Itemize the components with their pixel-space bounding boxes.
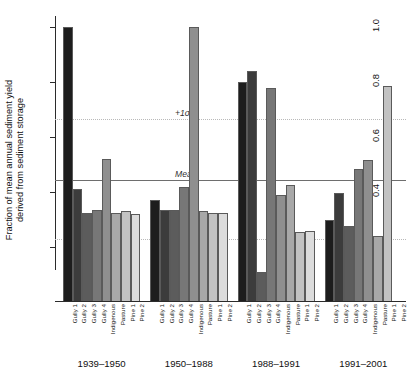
x-axis-category-label: Pine 2	[400, 304, 407, 322]
bar	[199, 211, 209, 302]
y-axis-title-line1: Fraction of mean annual sediment yield	[4, 80, 14, 240]
x-axis-category-label: Pasture	[119, 304, 126, 325]
x-axis-category-label: Gully 3	[352, 304, 359, 323]
x-axis-category-label: Gully 2	[80, 304, 87, 323]
x-axis-group-label: 1939–1950	[78, 358, 126, 369]
y-axis-title: Fraction of mean annual sediment yield d…	[0, 0, 30, 320]
bar	[92, 210, 102, 302]
x-axis-category-label: Pine 1	[303, 304, 310, 322]
x-axis-group-label: 1991–2001	[339, 358, 387, 369]
bar	[334, 193, 344, 302]
bar	[131, 214, 141, 302]
bar	[208, 213, 218, 302]
bar	[373, 236, 383, 302]
y-axis-tick	[50, 27, 55, 28]
bar	[295, 232, 305, 302]
x-axis-category-label: Gully 1	[245, 304, 252, 323]
plot-area: 0.20.40.60.81.0 +1σMean−1σ	[63, 16, 402, 302]
bar	[354, 169, 364, 302]
bar	[82, 213, 92, 302]
x-axis-category-labels: Gully 1Gully 2Gully 3Gully 4IndigenousPa…	[63, 304, 402, 352]
x-axis-category-label: Indigenous	[284, 304, 291, 334]
x-axis-category-label: Gully 4	[274, 304, 281, 323]
bar	[218, 213, 228, 302]
x-axis-category-label: Gully 4	[361, 304, 368, 323]
sediment-yield-bar-chart: Fraction of mean annual sediment yield d…	[0, 0, 414, 391]
x-axis-group-label: 1988–1991	[252, 358, 300, 369]
x-axis-category-label: Indigenous	[371, 304, 378, 334]
bar	[344, 226, 354, 302]
bar	[73, 189, 83, 302]
y-axis-tick	[50, 247, 55, 248]
bar	[286, 185, 296, 302]
bar	[179, 187, 189, 303]
x-axis-category-label: Gully 2	[168, 304, 175, 323]
x-axis-category-label: Pasture	[206, 304, 213, 325]
x-axis-category-label: Gully 4	[187, 304, 194, 323]
bar	[111, 213, 121, 302]
x-axis-line	[55, 301, 406, 302]
bar	[363, 160, 373, 302]
bar	[160, 210, 170, 302]
x-axis-category-label: Pine 2	[138, 304, 145, 322]
x-axis-category-label: Indigenous	[109, 304, 116, 334]
x-axis-category-label: Gully 3	[265, 304, 272, 323]
y-axis-tick	[50, 137, 55, 138]
bar	[102, 159, 112, 302]
bar	[189, 27, 199, 302]
x-axis-category-label: Pasture	[381, 304, 388, 325]
bar	[150, 200, 160, 302]
bar	[247, 71, 257, 302]
bar	[325, 220, 335, 303]
bar	[121, 211, 131, 302]
bar	[170, 210, 180, 302]
bar-series	[63, 16, 402, 302]
x-axis-category-label: Gully 2	[342, 304, 349, 323]
x-axis-category-label: Pine 1	[129, 304, 136, 322]
x-axis-category-label: Gully 3	[177, 304, 184, 323]
x-axis-category-label: Gully 4	[100, 304, 107, 323]
x-axis-category-label: Pine 1	[390, 304, 397, 322]
x-axis-category-label: Pine 2	[226, 304, 233, 322]
bar	[266, 88, 276, 303]
x-axis-category-label: Indigenous	[197, 304, 204, 334]
y-axis-tick	[50, 82, 55, 83]
x-axis-category-label: Gully 1	[332, 304, 339, 323]
x-axis-category-label: Pine 1	[216, 304, 223, 322]
x-axis-group-labels: 1939–19501950–19881988–19911991–2001	[63, 358, 402, 378]
bar	[383, 86, 393, 302]
x-axis-group-label: 1950–1988	[165, 358, 213, 369]
bar	[276, 195, 286, 302]
x-axis-category-label: Gully 1	[158, 304, 165, 323]
x-axis-category-label: Pasture	[294, 304, 301, 325]
bar	[238, 82, 248, 302]
x-axis-category-label: Gully 3	[90, 304, 97, 323]
x-axis-category-label: Gully 2	[255, 304, 262, 323]
bar	[257, 272, 267, 302]
bar	[63, 27, 73, 302]
y-axis-tick	[50, 192, 55, 193]
y-axis-title-line2: derived from sediment storage	[15, 80, 26, 240]
x-axis-category-label: Pine 2	[313, 304, 320, 322]
y-axis-line	[55, 16, 56, 270]
bar	[305, 231, 315, 303]
x-axis-category-label: Gully 1	[71, 304, 78, 323]
